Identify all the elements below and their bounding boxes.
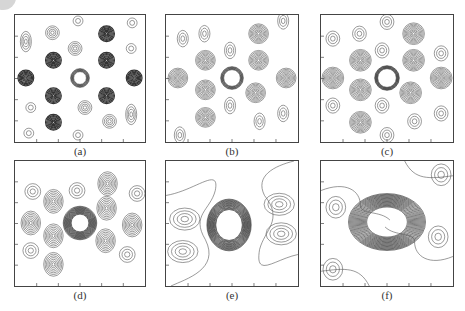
contour-line: [359, 59, 361, 61]
contour-line: [199, 84, 211, 96]
contour-line: [204, 89, 206, 91]
ring-contour: [221, 67, 242, 88]
ring-contour: [378, 69, 397, 88]
contour-line: [385, 133, 390, 138]
contour-line: [105, 180, 111, 187]
contour-line: [28, 186, 38, 196]
contour-line: [130, 20, 135, 25]
contour-line: [404, 51, 423, 70]
contour-line: [285, 77, 287, 79]
contour-line: [440, 77, 442, 79]
contour-line: [258, 119, 262, 125]
contour-line: [73, 47, 76, 50]
contour-line: [99, 232, 113, 249]
contour-line: [203, 58, 208, 63]
contour-line: [26, 131, 31, 136]
ring-contour: [224, 70, 241, 87]
contour-line: [409, 92, 411, 94]
ring-contour: [376, 67, 398, 89]
contour-line: [51, 31, 54, 34]
contour-plot-d: [15, 161, 145, 286]
contour-line: [30, 189, 35, 194]
contour-line: [350, 79, 372, 101]
ring-contour: [215, 209, 243, 241]
contour-line: [29, 221, 32, 224]
contour-line: [74, 188, 79, 193]
contour-line: [382, 17, 391, 27]
contour-line: [328, 34, 337, 44]
contour-line: [105, 33, 107, 35]
ring-contour: [375, 66, 400, 91]
ring-contour: [212, 205, 246, 244]
contour-line: [170, 208, 200, 230]
contour-line: [437, 48, 446, 58]
contour-line: [401, 83, 420, 102]
contour-line: [435, 72, 447, 84]
contour-line: [400, 82, 422, 104]
contour-line: [228, 48, 232, 54]
contour-line: [83, 106, 86, 109]
ring-contour: [222, 68, 242, 88]
contour-line: [253, 90, 258, 95]
contour-line: [68, 42, 82, 56]
ring-contour: [375, 66, 399, 90]
contour-line: [350, 111, 372, 133]
contour-line: [125, 216, 139, 233]
panel-label-a: (a): [50, 145, 110, 157]
contour-line: [358, 58, 363, 63]
contour-line: [172, 72, 184, 84]
contour-line: [351, 113, 370, 132]
contour-line: [412, 119, 417, 124]
ring-contour: [357, 200, 417, 244]
contour-line: [73, 16, 83, 26]
contour-line: [126, 44, 136, 54]
ring-contour: [221, 67, 244, 90]
ring-contour: [377, 68, 398, 89]
contour-line: [333, 204, 340, 211]
contour-line: [26, 103, 36, 113]
contour-line: [280, 108, 287, 119]
ring-contour: [71, 214, 90, 233]
contour-line: [405, 87, 417, 99]
ring-contour: [223, 69, 241, 87]
contour-line: [130, 112, 133, 117]
ring-contour: [74, 72, 87, 85]
contour-line: [52, 95, 54, 97]
contour-line: [355, 29, 364, 39]
contour-line: [380, 48, 385, 53]
panel-d: [14, 160, 146, 287]
contour-line: [264, 193, 294, 215]
contour-line: [326, 196, 346, 218]
contour-line: [181, 216, 189, 222]
panel-f: [320, 160, 454, 287]
ring-contour: [213, 206, 245, 244]
contour-line: [28, 105, 33, 110]
contour-line: [431, 164, 451, 186]
contour-line: [168, 68, 188, 88]
contour-line: [46, 227, 60, 244]
contour-line: [51, 198, 57, 205]
contour-line: [51, 232, 57, 239]
contour-line: [357, 31, 362, 36]
contour-line: [76, 133, 81, 138]
contour-line: [52, 200, 55, 203]
contour-line: [51, 261, 57, 268]
contour-line: [249, 50, 269, 70]
contour-line: [435, 233, 442, 240]
contour-line: [323, 258, 343, 280]
contour-line: [408, 90, 413, 95]
contour-line: [26, 245, 36, 255]
contour-line: [203, 115, 208, 120]
contour-line: [127, 18, 137, 28]
contour-line: [354, 84, 366, 96]
panel-e: [165, 160, 299, 287]
contour-line: [199, 54, 211, 66]
contour-line: [435, 168, 448, 182]
contour-line: [327, 72, 339, 84]
contour-line: [46, 26, 60, 40]
ring-contour: [70, 213, 90, 233]
contour-line: [439, 76, 444, 81]
contour-line: [181, 36, 185, 42]
contour-line: [196, 108, 216, 128]
contour-line: [196, 80, 216, 100]
